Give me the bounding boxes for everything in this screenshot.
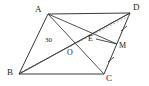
geometry-figure: A B C D O E M 30 (0, 0, 149, 86)
diagonal-ac-line (48, 14, 104, 74)
vertex-label-c: C (106, 74, 112, 83)
vertex-label-b: B (7, 68, 13, 77)
point-label-o: O (67, 49, 73, 57)
vertex-label-d: D (133, 3, 140, 12)
point-label-e: E (88, 35, 93, 43)
angle-label-30: 30 (45, 37, 52, 44)
point-label-m: M (119, 42, 126, 50)
figure-canvas (0, 0, 149, 86)
vertex-label-a: A (35, 5, 42, 14)
